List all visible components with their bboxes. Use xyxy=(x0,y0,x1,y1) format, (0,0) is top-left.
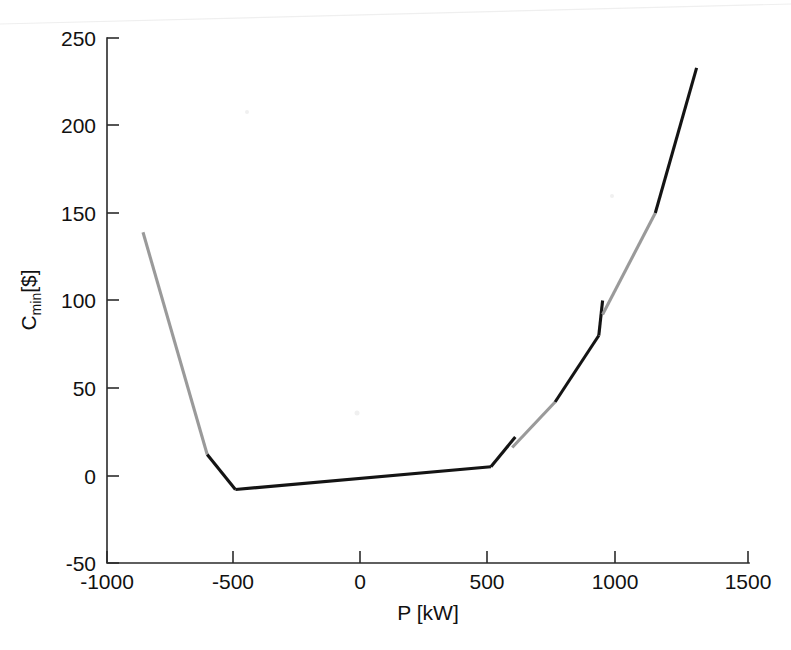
y-axis-title-sub: min xyxy=(28,293,44,316)
y-axis-ticks xyxy=(107,38,119,563)
axis-frame xyxy=(107,38,749,563)
figure-canvas: 250 200 150 100 50 0 -50 -1000 -500 0 50… xyxy=(0,0,791,650)
x-ticklabel-1000: 1000 xyxy=(592,570,639,593)
y-tick-labels: 250 200 150 100 50 0 -50 xyxy=(61,27,96,575)
y-ticklabel-200: 200 xyxy=(61,114,96,137)
series-segment-dark-9 xyxy=(655,68,696,213)
y-ticklabel-250: 250 xyxy=(61,27,96,50)
y-ticklabel-0: 0 xyxy=(84,465,96,488)
data-series-cmin xyxy=(143,68,697,490)
series-segment-light-5 xyxy=(512,402,555,448)
svg-text:Cmin[$]: Cmin[$] xyxy=(17,269,44,330)
y-ticklabel-150: 150 xyxy=(61,202,96,225)
series-segment-dark-2 xyxy=(207,455,235,490)
x-tick-labels: -1000 -500 0 500 1000 1500 xyxy=(80,570,771,593)
chart-svg: 250 200 150 100 50 0 -50 -1000 -500 0 50… xyxy=(0,0,791,650)
series-segment-dark-3 xyxy=(235,467,491,490)
scan-speck xyxy=(610,194,614,198)
x-ticklabel-minus1000: -1000 xyxy=(80,570,134,593)
y-axis-title: Cmin[$] xyxy=(17,269,44,330)
y-axis-title-base: C xyxy=(17,315,40,330)
x-axis-title: P [kW] xyxy=(397,601,458,624)
series-segment-light-8 xyxy=(603,213,656,315)
y-axis-title-unit: [$] xyxy=(17,269,40,292)
scan-speck xyxy=(355,411,360,416)
y-ticklabel-100: 100 xyxy=(61,289,96,312)
scan-artifact-line xyxy=(0,4,791,24)
x-axis-ticks xyxy=(107,551,748,563)
series-segment-dark-7 xyxy=(599,301,603,336)
series-segment-dark-6 xyxy=(555,336,599,403)
series-segment-light-1 xyxy=(143,232,207,454)
y-ticklabel-50: 50 xyxy=(73,377,96,400)
series-segment-dark-4 xyxy=(491,437,515,467)
x-ticklabel-0: 0 xyxy=(354,570,366,593)
x-ticklabel-500: 500 xyxy=(469,570,504,593)
scan-speck xyxy=(245,110,249,114)
x-ticklabel-minus500: -500 xyxy=(212,570,254,593)
x-ticklabel-1500: 1500 xyxy=(725,570,772,593)
